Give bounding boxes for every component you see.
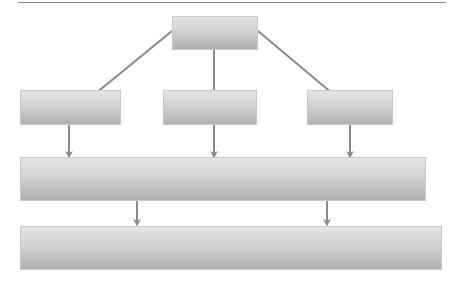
node-wide-1 <box>20 157 426 201</box>
arrow-top-to-mid-right <box>258 31 339 99</box>
arrow-top-to-mid-left <box>90 31 172 98</box>
node-mid-center <box>163 90 257 125</box>
node-top <box>172 16 258 50</box>
node-wide-2 <box>20 226 442 270</box>
node-mid-right <box>307 90 393 125</box>
node-mid-left <box>20 90 121 125</box>
